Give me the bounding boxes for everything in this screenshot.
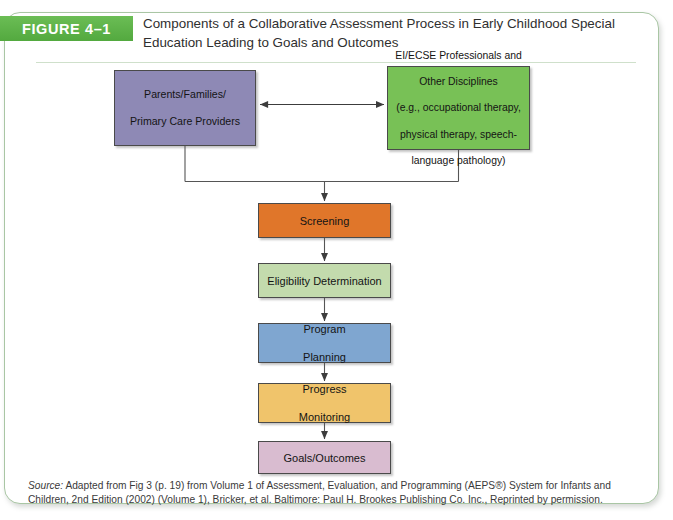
node-goals-label: Goals/Outcomes <box>259 452 390 464</box>
node-progress-line2: Monitoring <box>259 410 390 424</box>
figure-number-badge: FIGURE 4–1 <box>0 16 133 41</box>
node-screening: Screening <box>258 203 391 238</box>
figure-container: FIGURE 4–1 Components of a Collaborative… <box>0 0 673 520</box>
node-professionals-line2: Other Disciplines <box>388 75 529 88</box>
source-caption: Source: Adapted from Fig 3 (p. 19) from … <box>28 479 648 507</box>
figure-header: FIGURE 4–1 Components of a Collaborative… <box>0 16 673 64</box>
node-professionals-line1: EI/ECSE Professionals and <box>388 49 529 62</box>
node-program-planning: Program Planning <box>258 323 391 363</box>
node-goals-outcomes: Goals/Outcomes <box>258 441 391 474</box>
node-professionals-line4: physical therapy, speech- <box>388 128 529 141</box>
node-progress-line1: Progress <box>259 382 390 396</box>
node-professionals-line3: (e.g., occupational therapy, <box>388 101 529 114</box>
node-ei-ecse-professionals: EI/ECSE Professionals and Other Discipli… <box>387 66 530 150</box>
node-eligibility-determination: Eligibility Determination <box>258 263 391 298</box>
node-program-line1: Program <box>259 322 390 336</box>
figure-title: Components of a Collaborative Assessment… <box>143 14 638 52</box>
node-parents-line1: Parents/Families/ <box>115 88 255 102</box>
node-screening-label: Screening <box>259 215 390 227</box>
figure-frame <box>4 12 659 504</box>
source-text: Adapted from Fig 3 (p. 19) from Volume 1… <box>28 480 611 505</box>
node-professionals-line5: language pathology) <box>388 154 529 167</box>
node-parents-families: Parents/Families/ Primary Care Providers <box>114 70 256 146</box>
node-program-line2: Planning <box>259 350 390 364</box>
node-progress-monitoring: Progress Monitoring <box>258 383 391 423</box>
source-label: Source: <box>28 480 63 491</box>
header-divider <box>36 62 636 63</box>
node-parents-line2: Primary Care Providers <box>115 115 255 129</box>
node-eligibility-label: Eligibility Determination <box>259 275 390 287</box>
